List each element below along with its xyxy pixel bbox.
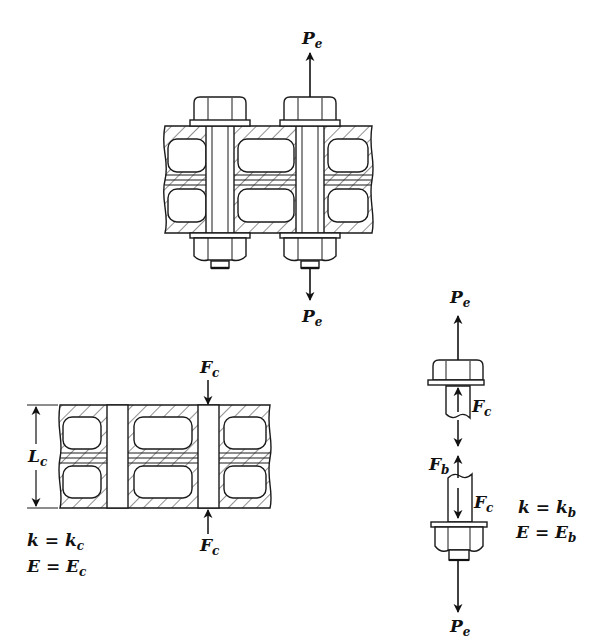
left-bolt-hole bbox=[107, 405, 128, 508]
length-dimension: Lc bbox=[27, 405, 58, 508]
bolt-lower-fc-label: Fc bbox=[473, 492, 494, 515]
bolt-upper-fc-label: Fc bbox=[471, 396, 492, 419]
right-nut bbox=[280, 233, 340, 268]
bolted-assembly: Pe Pe bbox=[164, 28, 374, 329]
bolt-top-load-label: Pe bbox=[449, 287, 471, 310]
bolt-free-body: Pe Fc Fb Fc Pe k = kb E = Eb bbox=[428, 287, 576, 639]
left-bolt-head bbox=[190, 97, 250, 126]
left-nut bbox=[190, 233, 250, 268]
top-load-label: Pe bbox=[301, 28, 323, 51]
bottom-load-label: Pe bbox=[301, 306, 323, 329]
length-label: Lc bbox=[27, 446, 48, 469]
member-modulus-label: E = Ec bbox=[26, 556, 87, 579]
bolt-lower-piece bbox=[431, 474, 487, 560]
bolt-bottom-load-label: Pe bbox=[449, 616, 471, 639]
member-bottom-force-label: Fc bbox=[199, 535, 220, 558]
member-free-body: Lc Fc Fc k = kc E = Ec bbox=[26, 357, 271, 579]
bolt-stiffness-label: k = kb bbox=[518, 497, 576, 520]
right-bolt-hole bbox=[198, 405, 219, 508]
member-stiffness-label: k = kc bbox=[27, 530, 85, 553]
right-bolt-head bbox=[280, 97, 340, 126]
member-top-force-label: Fc bbox=[199, 357, 220, 380]
bolt-fb-label: Fb bbox=[428, 454, 449, 477]
bolted-joint-diagram: Pe Pe Lc Fc Fc k = k bbox=[0, 0, 593, 639]
assembly-members bbox=[164, 126, 374, 233]
bolt-modulus-label: E = Eb bbox=[515, 522, 576, 545]
